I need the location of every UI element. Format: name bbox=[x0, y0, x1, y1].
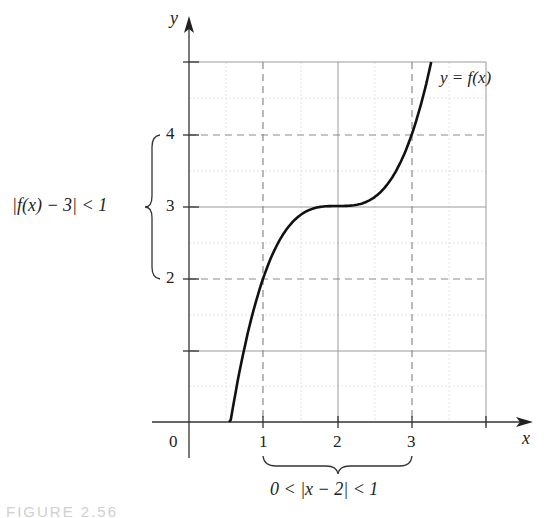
y-tick-label-2: 2 bbox=[166, 268, 175, 288]
y-axis-label: y bbox=[170, 8, 178, 29]
x-tick-label-3: 3 bbox=[407, 432, 416, 452]
x-interval-label: 0 < |x − 2| < 1 bbox=[270, 479, 378, 500]
axis-ticks bbox=[183, 62, 486, 428]
origin-label: 0 bbox=[169, 432, 178, 452]
x-axis-label: x bbox=[522, 428, 530, 449]
y-interval-brace bbox=[145, 135, 160, 279]
x-tick-label-2: 2 bbox=[333, 432, 342, 452]
x-interval-brace bbox=[263, 456, 412, 474]
axes bbox=[152, 26, 520, 458]
y-tick-label-4: 4 bbox=[166, 124, 175, 144]
figure-caption: FIGURE 2.56 bbox=[6, 503, 118, 518]
major-gridlines bbox=[189, 62, 486, 426]
x-tick-label-1: 1 bbox=[259, 432, 268, 452]
y-tick-label-3: 3 bbox=[166, 196, 175, 216]
curve-label: y = f(x) bbox=[440, 68, 491, 88]
function-curve bbox=[229, 62, 431, 422]
y-interval-label: |f(x) − 3| < 1 bbox=[12, 195, 107, 216]
